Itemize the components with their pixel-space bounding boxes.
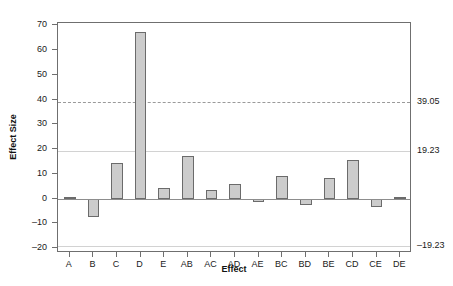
x-tick-label-A: A [66, 259, 72, 269]
bar-BE[interactable] [324, 178, 336, 199]
bar-AD[interactable] [229, 184, 241, 198]
y-tick-label: 30 [37, 118, 47, 128]
y-tick-label: 0 [42, 193, 47, 203]
x-tick-mark [376, 252, 377, 257]
bar-CD[interactable] [347, 160, 359, 199]
bar-CE[interactable] [371, 199, 383, 207]
x-tick-mark [352, 252, 353, 257]
y-tick-label: 40 [37, 94, 47, 104]
x-tick-label-BC: BC [275, 259, 288, 269]
x-tick-mark [163, 252, 164, 257]
x-tick-label-BD: BD [299, 259, 312, 269]
y-axis-title: Effect Size [8, 114, 18, 160]
x-tick-mark [328, 252, 329, 257]
x-tick-mark [140, 252, 141, 257]
y-tick-label: 20 [37, 143, 47, 153]
x-tick-label-AB: AB [181, 259, 193, 269]
x-tick-label-AC: AC [204, 259, 217, 269]
pareto-effects-chart: Effect Size 706050403020100–10–20 ABCDEA… [0, 0, 453, 286]
x-tick-label-DE: DE [393, 259, 406, 269]
y-tick-label: 60 [37, 44, 47, 54]
x-tick-mark [399, 252, 400, 257]
x-tick-label-B: B [89, 259, 95, 269]
reference-label-39-05: 39.05 [417, 96, 440, 106]
bar-AC[interactable] [206, 190, 218, 198]
x-tick-mark [210, 252, 211, 257]
x-tick-mark [116, 252, 117, 257]
x-tick-label-E: E [160, 259, 166, 269]
x-tick-mark [187, 252, 188, 257]
reference-line-labels: 39.0519.23–19.23 [411, 0, 453, 286]
x-tick-mark [92, 252, 93, 257]
x-tick-mark [305, 252, 306, 257]
x-tick-label-C: C [113, 259, 120, 269]
bar-AB[interactable] [182, 156, 194, 199]
x-tick-label-CD: CD [346, 259, 359, 269]
reference-line-19-23 [58, 151, 410, 152]
y-tick-label: 10 [37, 168, 47, 178]
bar-D[interactable] [135, 32, 147, 199]
y-tick-label: –10 [32, 217, 47, 227]
y-tick-label: 50 [37, 69, 47, 79]
x-tick-label-D: D [136, 259, 143, 269]
x-axis-title: Effect [221, 264, 246, 274]
x-tick-mark [234, 252, 235, 257]
bar-B[interactable] [88, 199, 100, 217]
y-tick-label: 70 [37, 19, 47, 29]
x-tick-mark [281, 252, 282, 257]
bar-E[interactable] [158, 188, 170, 198]
x-tick-label-BE: BE [322, 259, 334, 269]
reference-line-39-05 [58, 102, 410, 103]
y-tick-label: –20 [32, 242, 47, 252]
zero-baseline [58, 199, 410, 200]
reference-label-19-23: –19.23 [417, 240, 445, 250]
x-tick-mark [258, 252, 259, 257]
bar-C[interactable] [111, 163, 123, 198]
y-axis: Effect Size 706050403020100–10–20 [0, 0, 57, 286]
x-tick-label-CE: CE [369, 259, 382, 269]
x-tick-label-AE: AE [252, 259, 264, 269]
x-tick-mark [69, 252, 70, 257]
reference-line-19-23 [58, 246, 410, 247]
plot-area [57, 22, 411, 252]
reference-label-19-23: 19.23 [417, 145, 440, 155]
bar-BC[interactable] [276, 176, 288, 198]
